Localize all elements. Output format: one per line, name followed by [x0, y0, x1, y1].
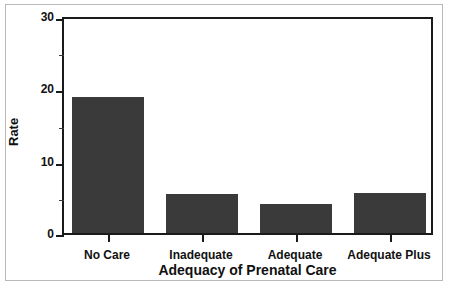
- x-tick-adequate: [296, 233, 298, 242]
- y-tick-label-30: 30: [8, 11, 54, 23]
- x-axis-title: Adequacy of Prenatal Care: [62, 262, 433, 278]
- y-tick-20: [56, 91, 64, 93]
- y-tick-10: [56, 164, 64, 166]
- x-tick-label-adequate-plus: Adequate Plus: [347, 248, 430, 262]
- y-tick-30: [56, 19, 64, 21]
- x-tick-no-care: [108, 233, 110, 242]
- bar-adequate[interactable]: [260, 204, 332, 233]
- y-tick-label-10: 10: [8, 156, 54, 168]
- x-tick-adequate-plus: [390, 233, 392, 242]
- bar-inadequate[interactable]: [166, 194, 238, 233]
- x-tick-label-adequate: Adequate: [268, 248, 323, 262]
- y-tick-label-0: 0: [8, 228, 54, 240]
- bar-no-care[interactable]: [72, 97, 144, 233]
- plot-area: [62, 17, 433, 235]
- y-axis-title: Rate: [6, 102, 22, 162]
- x-tick-label-inadequate: Inadequate: [169, 248, 232, 262]
- bar-adequate-plus[interactable]: [354, 193, 426, 233]
- x-tick-label-no-care: No Care: [84, 248, 130, 262]
- bar-series: [64, 19, 431, 233]
- y-tick-label-20: 20: [8, 83, 54, 95]
- y-tick-0: [56, 235, 64, 237]
- x-tick-inadequate: [202, 233, 204, 242]
- figure: Rate 30 20 10 0 No Care Inadequate Adequ…: [0, 0, 454, 288]
